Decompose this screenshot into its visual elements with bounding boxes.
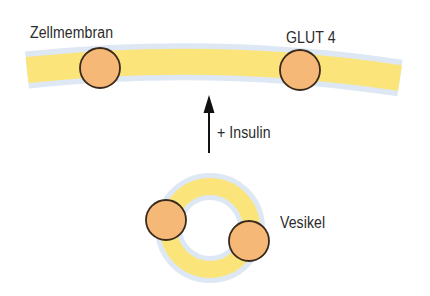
vesicle-glut4-left <box>146 200 186 240</box>
label-insulin: + Insulin <box>217 125 271 141</box>
label-vesicle: Vesikel <box>280 215 325 231</box>
glut4-diagram <box>0 0 430 296</box>
vesicle-glut4-right <box>229 221 269 261</box>
membrane-glut4-right <box>280 50 320 90</box>
membrane-glut4-left <box>80 48 120 88</box>
arrow-up-icon <box>204 95 215 153</box>
label-glut4: GLUT 4 <box>286 30 336 46</box>
label-membrane: Zellmembran <box>30 25 113 41</box>
